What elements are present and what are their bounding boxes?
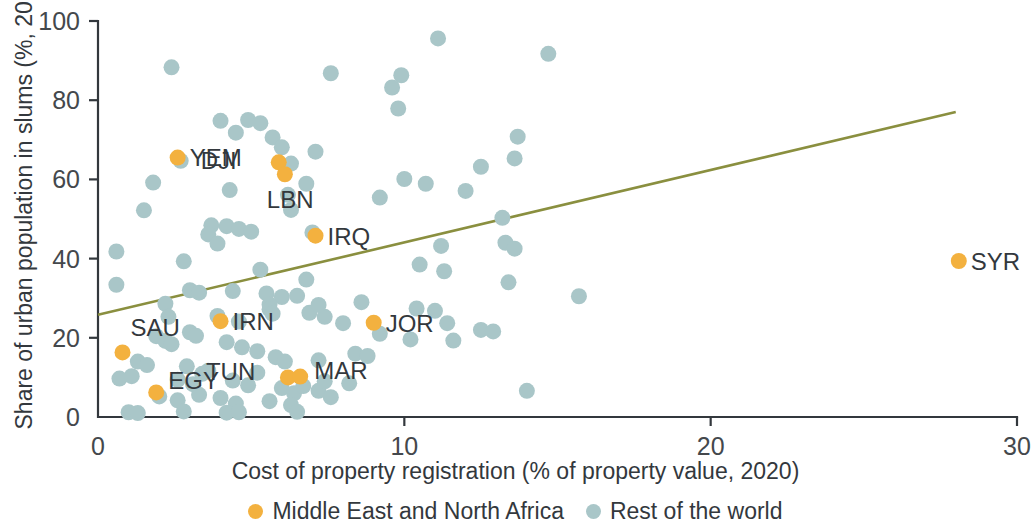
data-point bbox=[372, 190, 388, 206]
trend-line bbox=[98, 112, 956, 315]
data-point bbox=[433, 238, 449, 254]
data-point bbox=[176, 403, 192, 419]
data-point bbox=[500, 274, 516, 290]
data-point bbox=[136, 202, 152, 218]
data-point bbox=[418, 176, 434, 192]
legend-dot-mena bbox=[248, 504, 263, 519]
data-point bbox=[191, 285, 207, 301]
data-point bbox=[353, 294, 369, 310]
chart-legend: Middle East and North Africa Rest of the… bbox=[0, 498, 1031, 525]
data-point bbox=[439, 315, 455, 331]
data-point bbox=[176, 253, 192, 269]
x-tick-label: 0 bbox=[91, 432, 105, 460]
data-point bbox=[473, 159, 489, 175]
data-point bbox=[307, 228, 323, 244]
data-point bbox=[262, 393, 278, 409]
data-point bbox=[243, 224, 259, 240]
data-point bbox=[540, 46, 556, 62]
data-point-label: IRQ bbox=[327, 223, 370, 250]
x-tick-label: 20 bbox=[697, 432, 725, 460]
data-point bbox=[289, 288, 305, 304]
data-point bbox=[292, 369, 308, 385]
legend-label-mena: Middle East and North Africa bbox=[272, 498, 563, 525]
data-point-label: DJI bbox=[201, 147, 237, 174]
data-point bbox=[219, 334, 235, 350]
scatter-plot: 0204060801000102030 YEMDJILBNIRQSYRJORIR… bbox=[0, 0, 1031, 526]
data-point bbox=[139, 357, 155, 373]
data-point-label: EGY bbox=[168, 367, 219, 394]
data-point bbox=[571, 288, 587, 304]
data-point bbox=[170, 150, 186, 166]
data-point bbox=[213, 113, 229, 129]
legend-item-rest[interactable]: Rest of the world bbox=[586, 498, 783, 525]
x-tick-label: 30 bbox=[1003, 432, 1031, 460]
data-point bbox=[384, 80, 400, 96]
data-point bbox=[507, 241, 523, 257]
data-point bbox=[124, 368, 140, 384]
y-tick-label: 20 bbox=[52, 324, 80, 352]
data-point bbox=[458, 183, 474, 199]
data-point bbox=[390, 101, 406, 117]
data-point-label: JOR bbox=[386, 310, 434, 337]
data-point bbox=[145, 175, 161, 191]
x-tick-label: 10 bbox=[390, 432, 418, 460]
y-axis-title: Share of urban population in slums (%, 2… bbox=[11, 0, 38, 430]
data-point bbox=[396, 171, 412, 187]
data-point bbox=[252, 262, 268, 278]
data-point bbox=[507, 150, 523, 166]
legend-item-mena[interactable]: Middle East and North Africa bbox=[248, 498, 563, 525]
data-point bbox=[108, 243, 124, 259]
data-point bbox=[130, 405, 146, 421]
data-point bbox=[231, 404, 247, 420]
data-point bbox=[323, 389, 339, 405]
data-point-label: LBN bbox=[267, 186, 314, 213]
data-point bbox=[209, 236, 225, 252]
y-tick-label: 40 bbox=[52, 245, 80, 273]
data-point bbox=[436, 263, 452, 279]
data-point-label: SYR bbox=[971, 248, 1020, 275]
legend-label-rest: Rest of the world bbox=[610, 498, 783, 525]
data-point-label: IRN bbox=[233, 308, 274, 335]
data-point bbox=[108, 277, 124, 293]
data-point-label: MAR bbox=[314, 357, 367, 384]
data-point bbox=[234, 339, 250, 355]
data-point bbox=[222, 182, 238, 198]
data-point bbox=[485, 323, 501, 339]
data-point bbox=[430, 30, 446, 46]
data-point bbox=[445, 333, 461, 349]
legend-dot-rest bbox=[586, 504, 601, 519]
data-point bbox=[252, 115, 268, 131]
data-point bbox=[951, 253, 967, 269]
data-point bbox=[412, 257, 428, 273]
x-axis-title: Cost of property registration (% of prop… bbox=[0, 458, 1031, 485]
data-point bbox=[225, 283, 241, 299]
data-point bbox=[494, 210, 510, 226]
y-tick-label: 80 bbox=[52, 86, 80, 114]
data-point bbox=[213, 313, 229, 329]
data-point bbox=[188, 328, 204, 344]
data-point bbox=[323, 65, 339, 81]
data-point bbox=[311, 297, 327, 313]
data-point bbox=[366, 315, 382, 331]
data-point bbox=[274, 139, 290, 155]
data-point bbox=[228, 125, 244, 141]
data-point bbox=[289, 404, 305, 420]
y-tick-label: 0 bbox=[66, 403, 80, 431]
data-point bbox=[519, 383, 535, 399]
data-point bbox=[510, 129, 526, 145]
data-point bbox=[277, 354, 293, 370]
data-point bbox=[335, 315, 351, 331]
data-point bbox=[277, 166, 293, 182]
data-point bbox=[298, 272, 314, 288]
data-point bbox=[249, 343, 265, 359]
data-point-label: SAU bbox=[131, 314, 180, 341]
data-point bbox=[164, 59, 180, 75]
data-point bbox=[307, 144, 323, 160]
y-tick-label: 100 bbox=[38, 7, 80, 35]
data-point bbox=[148, 384, 164, 400]
y-tick-label: 60 bbox=[52, 165, 80, 193]
data-point bbox=[115, 344, 131, 360]
chart-page: 0204060801000102030 YEMDJILBNIRQSYRJORIR… bbox=[0, 0, 1031, 526]
